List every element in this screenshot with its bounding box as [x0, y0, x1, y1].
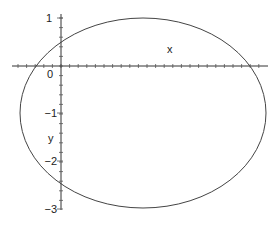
y-tick-label-neg1: −1	[44, 107, 57, 119]
chart-plot: 1 0 −1 −2 −3 x y	[0, 0, 278, 228]
y-tick-label-1: 1	[46, 12, 52, 24]
y-axis-ticks	[57, 18, 63, 209]
origin-label: 0	[47, 68, 53, 80]
y-tick-label-neg2: −2	[44, 155, 57, 167]
y-axis-label: y	[48, 132, 54, 144]
y-tick-label-neg3: −3	[44, 203, 57, 215]
x-axis-label: x	[167, 43, 173, 55]
